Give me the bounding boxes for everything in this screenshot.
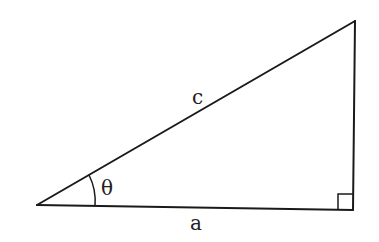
vertical-side-line	[353, 21, 355, 210]
label-base-a: a	[190, 211, 202, 235]
right-triangle-diagram: c a θ	[0, 0, 379, 242]
base-line	[37, 205, 353, 210]
angle-arc	[89, 175, 95, 206]
label-hypotenuse-c: c	[192, 85, 203, 109]
label-angle-theta: θ	[101, 176, 113, 200]
hypotenuse-line	[37, 21, 355, 205]
right-angle-marker	[338, 194, 353, 210]
